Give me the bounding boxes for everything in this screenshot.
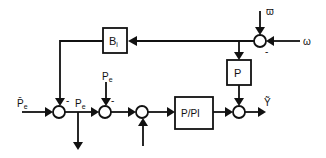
arrow-head <box>266 36 274 46</box>
output-label: Ỹ <box>264 96 271 108</box>
arrow-head <box>234 52 244 60</box>
arrow-head <box>225 107 233 117</box>
arrow-head <box>255 27 265 35</box>
omega-label: ω <box>303 36 311 47</box>
sum-junction-3 <box>136 106 148 118</box>
minus-sign-omega: - <box>265 46 268 57</box>
arrow-head <box>138 118 148 126</box>
arrow-head <box>55 98 65 106</box>
arrow-head <box>101 98 111 106</box>
bi-output-line <box>60 41 103 100</box>
block-diagram: Bi P P/PI ϖ ω - P̄e - Pe Pe - Ỹ <box>0 0 326 158</box>
omega-ref-label: ϖ <box>266 6 274 17</box>
block-p-label: P <box>234 67 241 79</box>
arrow-head <box>73 142 83 150</box>
sum-junction-2 <box>99 106 111 118</box>
sum-junction-1 <box>53 106 65 118</box>
pe-bar-label: P̄e <box>17 97 28 110</box>
minus-sign-2: - <box>111 95 114 106</box>
sum-junction-output <box>233 106 245 118</box>
arrow-head <box>234 98 244 106</box>
pe-tilde-label: Pe <box>75 98 86 110</box>
block-ppi-label: P/PI <box>181 108 200 119</box>
arrow-head <box>91 107 99 117</box>
arrow-head <box>167 107 175 117</box>
minus-sign-1: - <box>66 95 69 106</box>
arrow-head <box>128 36 137 46</box>
arrow-head <box>258 107 266 117</box>
pe-label: Pe <box>102 71 113 83</box>
arrow-head <box>45 107 53 117</box>
arrow-head <box>128 107 136 117</box>
